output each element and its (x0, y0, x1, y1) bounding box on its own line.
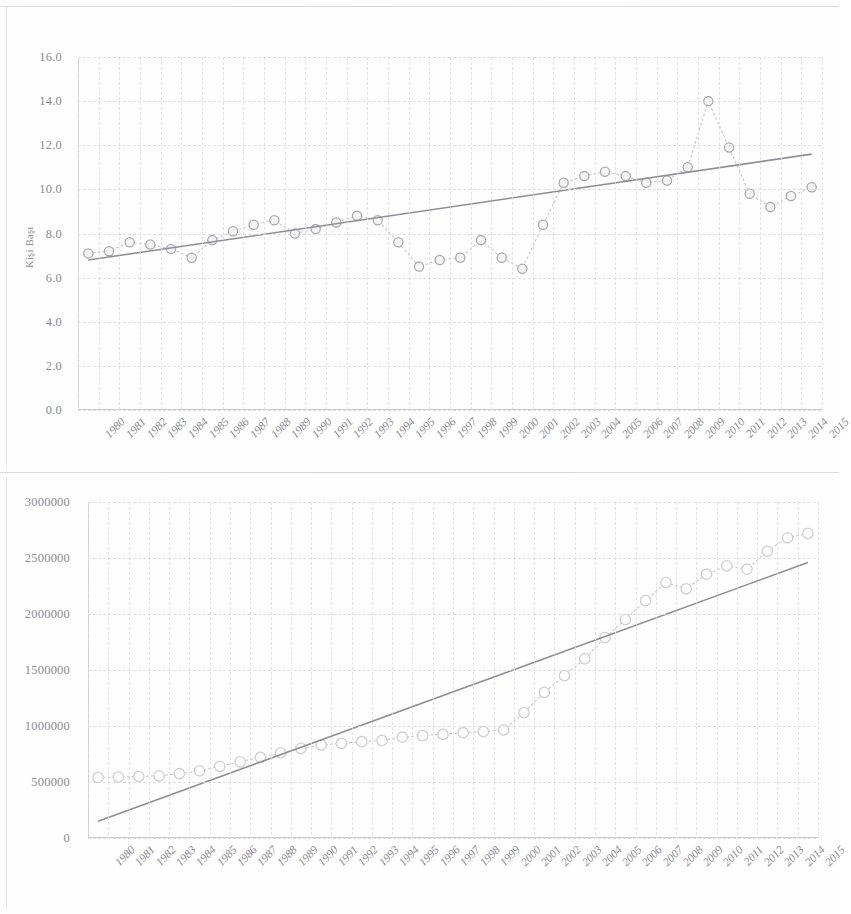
data-point-marker (701, 569, 711, 579)
x-tick-label: 2009 (701, 843, 726, 868)
gridline-vertical (202, 57, 203, 410)
x-tick-label: 2005 (619, 843, 644, 868)
data-point-marker (762, 546, 772, 556)
gridline-vertical (223, 57, 224, 410)
y-tick-label: 6.0 (46, 270, 62, 285)
gridline-vertical (781, 57, 782, 410)
gridline-vertical (453, 502, 454, 838)
data-point-marker (352, 211, 361, 220)
gridline-vertical (636, 57, 637, 410)
x-tick-label: 1997 (457, 843, 482, 868)
x-tick-label: 1990 (315, 843, 340, 868)
gridline-vertical (739, 57, 740, 410)
gridline-vertical (575, 502, 576, 838)
data-point-marker (187, 253, 196, 262)
data-point-marker (683, 163, 692, 172)
gridline-vertical (798, 502, 799, 838)
x-tick-label: 2006 (640, 843, 665, 868)
gridline-vertical (264, 57, 265, 410)
data-point-marker (113, 772, 123, 782)
x-tick-label: 2009 (702, 415, 727, 440)
gridline-vertical (615, 502, 616, 838)
data-point-marker (458, 728, 468, 738)
gridline-vertical (450, 57, 451, 410)
y-tick-label: 500000 (31, 775, 70, 790)
gridline-vertical (149, 502, 150, 838)
gridline-vertical (311, 502, 312, 838)
data-point-marker (377, 735, 387, 745)
data-point-marker (580, 654, 590, 664)
gridline-vertical (822, 57, 823, 410)
gridline-vertical (129, 502, 130, 838)
x-tick-label: 1991 (330, 415, 355, 440)
x-tick-label: 1989 (289, 415, 314, 440)
gridline-vertical (818, 502, 819, 838)
gridline-vertical (412, 502, 413, 838)
gridline-vertical (409, 57, 410, 410)
x-tick-label: 1993 (376, 843, 401, 868)
x-tick-label: 2000 (518, 843, 543, 868)
y-tick-label: 0 (64, 831, 70, 846)
data-point-marker (397, 732, 407, 742)
x-tick-label: 2003 (578, 415, 603, 440)
x-tick-label: 1993 (371, 415, 396, 440)
gridline-vertical (119, 57, 120, 410)
data-point-marker (786, 191, 795, 200)
gridline-vertical (161, 57, 162, 410)
data-point-marker (559, 670, 569, 680)
data-point-marker (228, 227, 237, 236)
gridline-vertical (777, 502, 778, 838)
gridline-vertical (533, 57, 534, 410)
gridline-vertical (757, 502, 758, 838)
gridline-vertical (271, 502, 272, 838)
gridline-vertical (696, 502, 697, 838)
x-tick-label: 1991 (336, 843, 361, 868)
data-point-marker (208, 236, 217, 245)
gridline-vertical (243, 57, 244, 410)
x-tick-label: 1982 (153, 843, 178, 868)
data-point-marker (766, 202, 775, 211)
data-point-marker (336, 738, 346, 748)
data-point-marker (478, 726, 488, 736)
gridline-vertical (189, 502, 190, 838)
chart-per-capita: 0.02.04.06.08.010.012.014.016.0 Kişi Baş… (0, 0, 839, 470)
gridline-vertical (677, 57, 678, 410)
gridline-vertical (250, 502, 251, 838)
data-point-marker (174, 768, 184, 778)
x-tick-label: 2003 (579, 843, 604, 868)
data-point-marker (497, 253, 506, 262)
x-tick-label: 2002 (557, 415, 582, 440)
x-tick-label: 2008 (680, 843, 705, 868)
x-tick-label: 1984 (194, 843, 219, 868)
y-tick-label: 14.0 (39, 94, 62, 109)
x-tick-label: 1996 (433, 415, 458, 440)
data-point-marker (661, 577, 671, 587)
x-tick-label: 2000 (516, 415, 541, 440)
gridline-vertical (181, 57, 182, 410)
data-point-marker (414, 262, 423, 271)
x-tick-label: 1981 (133, 843, 158, 868)
x-tick-label: 1987 (247, 415, 272, 440)
data-point-marker (104, 247, 113, 256)
gridline-vertical (392, 502, 393, 838)
data-point-marker (539, 687, 549, 697)
y-tick-label: 1500000 (25, 663, 70, 678)
gridline-vertical (140, 57, 141, 410)
x-tick-label: 1994 (396, 843, 421, 868)
x-tick-label: 2011 (743, 415, 767, 439)
gridline-vertical (491, 57, 492, 410)
chart1-y-tick-labels: 0.02.04.06.08.010.012.014.016.0 (0, 0, 72, 470)
x-tick-label: 1994 (392, 415, 417, 440)
data-point-marker (519, 707, 529, 717)
x-tick-label: 1999 (498, 843, 523, 868)
data-point-marker (600, 167, 609, 176)
y-tick-label: 2500000 (25, 551, 70, 566)
gridline-vertical (473, 502, 474, 838)
gridline-vertical (372, 502, 373, 838)
gridline-vertical (737, 502, 738, 838)
x-tick-label: 1986 (234, 843, 259, 868)
gridline-vertical (210, 502, 211, 838)
data-point-marker (518, 264, 527, 273)
y-tick-label: 8.0 (46, 226, 62, 241)
gridline-horizontal (78, 410, 822, 411)
